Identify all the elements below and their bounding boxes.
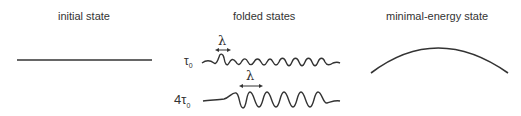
- wavelength-label-4tau0: λ: [246, 68, 254, 83]
- arrowhead-right-icon: [259, 84, 263, 88]
- arrowhead-right-icon: [227, 48, 231, 52]
- load-subscript: 0: [189, 62, 193, 69]
- arrowhead-left-icon: [215, 48, 219, 52]
- diagram-canvas: [0, 0, 521, 116]
- load-subscript: 0: [186, 102, 190, 109]
- arrowhead-left-icon: [239, 84, 243, 88]
- wavelength-label-tau0: λ: [218, 33, 226, 48]
- minimal-energy-arc: [371, 48, 508, 73]
- load-label-tau0: τ0: [184, 54, 193, 69]
- folded-wave-4tau0: [203, 92, 340, 108]
- load-label-4tau0: 4τ0: [174, 92, 190, 109]
- load-symbol: 4τ: [174, 92, 186, 107]
- folded-wave-tau0: [202, 54, 340, 66]
